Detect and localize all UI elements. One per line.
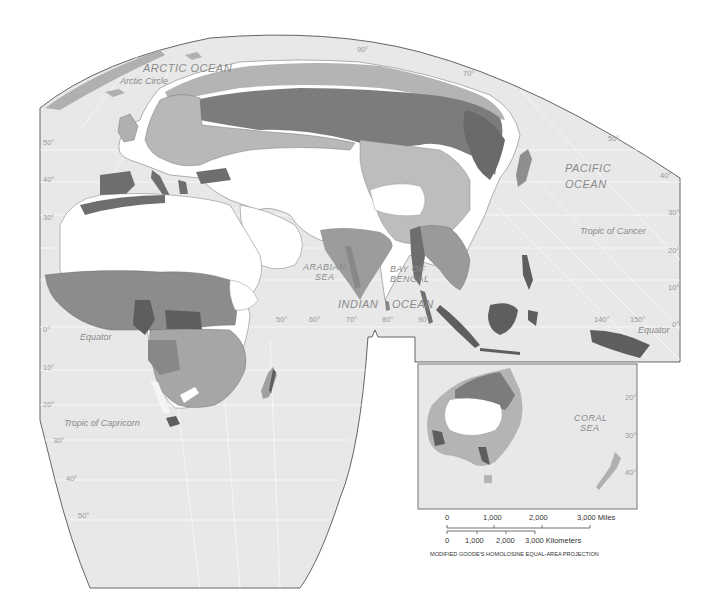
svg-text:2,000: 2,000	[529, 513, 548, 522]
lat-label: 0°	[43, 325, 50, 334]
lat-label-right: 20°	[668, 246, 679, 255]
label-arabian-sea: SEA	[315, 272, 335, 282]
label-coral-sea: SEA	[580, 423, 600, 433]
label-pacific-ocean: OCEAN	[565, 178, 607, 190]
lat-label: 50°	[78, 511, 89, 520]
scale-bar-miles: 0 1,000 2,000 3,000 Miles	[445, 513, 616, 528]
label-pacific: PACIFIC	[565, 162, 611, 174]
aus-lat-label: 30°	[625, 431, 636, 440]
zone-tibet	[370, 184, 425, 216]
zone-australia-interior	[445, 398, 502, 435]
lon-label: 70°	[346, 315, 357, 324]
lat-label: 40°	[66, 474, 77, 483]
aus-lat-label: 40°	[625, 468, 636, 477]
lat-label: 50°	[43, 138, 54, 147]
svg-text:3,000 Kilometers: 3,000 Kilometers	[525, 536, 582, 545]
lon-label: 150°	[630, 315, 646, 324]
label-equator-east: Equator	[638, 325, 671, 335]
lat-label-right: 50°	[608, 134, 619, 143]
label-arctic-circle: Arctic Circle	[119, 76, 168, 86]
zone-congo-east	[165, 310, 202, 332]
lon-label: 90°	[418, 315, 429, 324]
svg-text:1,000: 1,000	[483, 513, 502, 522]
svg-text:0: 0	[445, 513, 449, 522]
label-bay-of: BAY OF	[390, 264, 425, 274]
top-label: 90°	[357, 45, 368, 54]
svg-text:3,000 Miles: 3,000 Miles	[577, 513, 616, 522]
lat-label-right: 30°	[668, 208, 679, 217]
lat-label: 10°	[43, 363, 54, 372]
world-map-eastern-hemisphere: ARCTIC OCEAN Arctic Circle PACIFIC OCEAN…	[0, 0, 720, 589]
label-arctic-ocean: ARCTIC OCEAN	[142, 62, 232, 74]
aus-lat-label: 20°	[625, 393, 636, 402]
lat-label: 40°	[43, 175, 54, 184]
label-tropic-of-cancer: Tropic of Cancer	[580, 226, 647, 236]
lat-label-right: 40°	[660, 171, 671, 180]
svg-text:1,000: 1,000	[465, 536, 484, 545]
top-label: 70°	[463, 69, 474, 78]
lat-label-right: 10°	[668, 283, 679, 292]
label-coral: CORAL	[574, 413, 608, 423]
tasmania	[484, 475, 492, 483]
label-tropic-of-capricorn: Tropic of Capricorn	[64, 418, 140, 428]
lon-label: 140°	[594, 315, 610, 324]
label-indian-ocean: OCEAN	[392, 298, 434, 310]
lat-label: 20°	[43, 400, 54, 409]
scale-bar-kilometers: 0 1,000 2,000 3,000 Kilometers	[445, 531, 582, 545]
svg-text:0: 0	[445, 536, 449, 545]
projection-note: MODIFIED GOODE'S HOMOLOSINE EQUAL-AREA P…	[430, 551, 599, 557]
lat-label: 30°	[53, 436, 64, 445]
lon-label: 80°	[382, 315, 393, 324]
label-equator-west: Equator	[80, 332, 113, 342]
label-arabian: ARABIAN	[302, 262, 346, 272]
lon-label: 50°	[276, 315, 287, 324]
svg-text:2,000: 2,000	[496, 536, 515, 545]
label-bengal: BENGAL	[390, 274, 430, 284]
label-indian: INDIAN	[338, 298, 378, 310]
lon-label: 60°	[309, 315, 320, 324]
lat-label-right: 0°	[672, 320, 679, 329]
lat-label: 30°	[43, 213, 54, 222]
